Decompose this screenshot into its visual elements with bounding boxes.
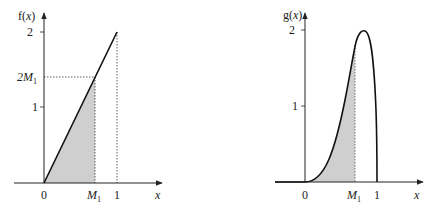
ytick-label-2-f: 2	[27, 25, 33, 39]
y-axis-label-g: g(x)	[283, 8, 302, 22]
curve-g	[275, 31, 377, 182]
ytick-label-2m1-f: 2M1	[17, 70, 37, 86]
xtick-label-1-g: 1	[374, 188, 380, 202]
ytick-label-2-g: 2	[289, 23, 295, 37]
y-axis-label-f: f(x)	[18, 9, 35, 23]
chart-g: g(x) 2 1 0 M1 1 x	[275, 8, 423, 204]
figure: f(x) 2 1 2M1 0 M1 1 x g(x) 2 1 0 M1 1 x	[0, 0, 438, 211]
xtick-label-0-g: 0	[302, 188, 308, 202]
x-axis-label-f: x	[154, 188, 161, 202]
ytick-label-1-f: 1	[32, 100, 38, 114]
xtick-label-m1-f: M1	[86, 188, 101, 204]
xtick-label-m1-g: M1	[346, 188, 361, 204]
x-axis-label-g: x	[413, 188, 420, 202]
xtick-label-0-f: 0	[41, 188, 47, 202]
shaded-area-g	[305, 45, 355, 182]
ytick-label-1-g: 1	[292, 99, 298, 113]
chart-f: f(x) 2 1 2M1 0 M1 1 x	[14, 9, 162, 204]
xtick-label-1-f: 1	[114, 188, 120, 202]
